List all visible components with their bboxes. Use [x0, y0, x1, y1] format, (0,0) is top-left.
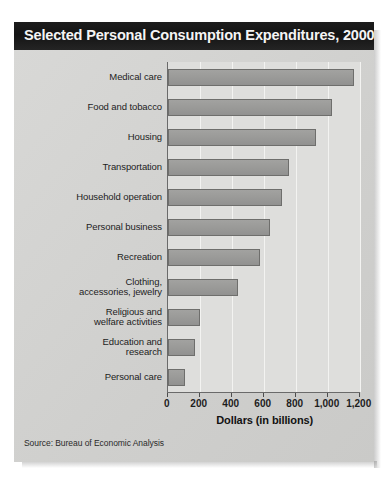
category-label-line: Personal care [18, 372, 162, 383]
bar-personal-business [168, 219, 270, 236]
category-label: Household operation [18, 192, 162, 203]
category-axis-labels: Medical careFood and tobaccoHousingTrans… [18, 62, 162, 392]
category-label-line: Household operation [18, 192, 162, 203]
x-tick-label: 0 [164, 398, 170, 409]
category-label: Transportation [18, 162, 162, 173]
category-label: Religious andwelfare activities [18, 307, 162, 328]
bar-personal-care [168, 369, 186, 386]
bar-recreation [168, 249, 261, 266]
x-tick-label: 1,000 [314, 398, 339, 409]
figure-title-bar: Selected Personal Consumption Expenditur… [14, 22, 374, 50]
category-label: Clothing,accessories, jewelry [18, 277, 162, 298]
x-tick [295, 393, 296, 397]
page-shadow-bottom [22, 461, 377, 468]
bar-transportation [168, 159, 290, 176]
category-label-line: research [18, 347, 162, 358]
bar-religious-and-welfare-activities [168, 309, 200, 326]
x-tick-label: 400 [222, 398, 239, 409]
bar-food-and-tobacco [168, 99, 332, 116]
figure-panel: Selected Personal Consumption Expenditur… [14, 22, 374, 462]
source-note: Source: Bureau of Economic Analysis [24, 438, 164, 448]
x-tick [263, 393, 264, 397]
bar-education-and-research [168, 339, 195, 356]
x-tick [327, 393, 328, 397]
x-tick-label: 600 [254, 398, 271, 409]
category-label-line: Personal business [18, 222, 162, 233]
category-label-line: Medical care [18, 72, 162, 83]
category-label-line: welfare activities [18, 317, 162, 328]
category-label-line: Food and tobacco [18, 102, 162, 113]
x-tick-label: 200 [190, 398, 207, 409]
x-tick [167, 393, 168, 397]
x-tick [231, 393, 232, 397]
x-tick-label: 1,200 [346, 398, 371, 409]
category-label: Food and tobacco [18, 102, 162, 113]
category-label-line: Transportation [18, 162, 162, 173]
page-shadow-right [374, 30, 381, 468]
category-label: Housing [18, 132, 162, 143]
bar-household-operation [168, 189, 282, 206]
category-label: Medical care [18, 72, 162, 83]
category-label-line: accessories, jewelry [18, 287, 162, 298]
figure-title: Selected Personal Consumption Expenditur… [24, 26, 374, 43]
x-tick [359, 393, 360, 397]
bar-medical-care [168, 69, 354, 86]
chart-body: Medical careFood and tobaccoHousingTrans… [14, 50, 374, 462]
category-label-line: Recreation [18, 252, 162, 263]
category-label: Personal business [18, 222, 162, 233]
category-label: Recreation [18, 252, 162, 263]
bar-clothing-accessories-jewelry [168, 279, 238, 296]
bar-housing [168, 129, 316, 146]
x-tick [199, 393, 200, 397]
gridline [360, 62, 361, 392]
chart-figure-page: Selected Personal Consumption Expenditur… [0, 0, 391, 477]
plot-area [167, 62, 360, 393]
category-label: Personal care [18, 372, 162, 383]
x-tick-label: 800 [286, 398, 303, 409]
category-label-line: Housing [18, 132, 162, 143]
x-axis-title: Dollars (in billions) [167, 414, 363, 426]
category-label: Education andresearch [18, 337, 162, 358]
